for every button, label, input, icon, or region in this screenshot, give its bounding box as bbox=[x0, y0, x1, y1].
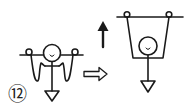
right-weight-triangle-icon bbox=[141, 81, 155, 92]
right-figure bbox=[117, 12, 183, 92]
left-weight-triangle-icon bbox=[45, 91, 59, 101]
left-head-icon bbox=[44, 45, 61, 62]
left-ring-left-icon bbox=[26, 49, 32, 55]
left-figure bbox=[20, 45, 83, 102]
transition-arrow-icon bbox=[84, 68, 107, 81]
left-loop-left bbox=[31, 55, 45, 81]
left-ring-right-icon bbox=[72, 49, 78, 55]
lift-arrow-icon bbox=[98, 21, 109, 47]
left-loop-right bbox=[59, 55, 73, 81]
right-head-icon bbox=[139, 37, 157, 55]
diagram-canvas bbox=[0, 0, 190, 110]
